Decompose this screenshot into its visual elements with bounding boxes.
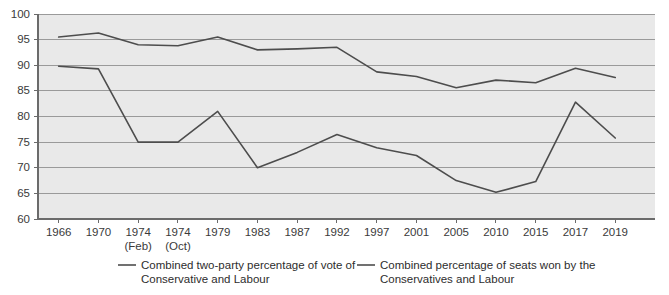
- x-axis-label-11: 2010: [483, 226, 509, 238]
- chart-legend: Combined two-party percentage of vote of…: [118, 259, 595, 285]
- y-axis-label-95: 95: [17, 33, 30, 45]
- x-axis-label-3: 1974: [165, 226, 191, 238]
- x-axis-ticks: 196619701974(Feb)1974(Oct)19791983198719…: [46, 219, 628, 252]
- legend-label-vote-line1: Combined two-party percentage of vote of: [141, 259, 356, 271]
- x-axis-label-0: 1966: [46, 226, 72, 238]
- x-axis-label-4: 1979: [205, 226, 231, 238]
- y-axis-label-75: 75: [17, 136, 30, 148]
- y-axis-label-100: 100: [11, 8, 30, 20]
- y-axis-label-65: 65: [17, 187, 30, 199]
- x-axis-label-2: 1974: [125, 226, 151, 238]
- line-chart: 6065707580859095100 196619701974(Feb)197…: [0, 0, 669, 295]
- x-axis-sublabel-2: (Feb): [124, 240, 152, 252]
- x-axis-label-1: 1970: [86, 226, 112, 238]
- x-axis-label-8: 1997: [364, 226, 390, 238]
- y-axis-ticks: 6065707580859095100: [11, 8, 38, 225]
- x-axis-sublabel-3: (Oct): [165, 240, 191, 252]
- y-axis-label-60: 60: [17, 213, 30, 225]
- x-axis-label-9: 2001: [404, 226, 430, 238]
- y-axis-label-85: 85: [17, 84, 30, 96]
- x-axis-label-5: 1983: [245, 226, 271, 238]
- legend-label-seats-line2: Conservatives and Labour: [380, 273, 514, 285]
- y-axis-label-90: 90: [17, 59, 30, 71]
- y-axis-label-80: 80: [17, 110, 30, 122]
- x-axis-label-12: 2015: [523, 226, 549, 238]
- y-axis-label-70: 70: [17, 161, 30, 173]
- legend-label-seats-line1: Combined percentage of seats won by the: [380, 259, 595, 271]
- legend-label-vote-line2: Conservative and Labour: [141, 273, 270, 285]
- chart-page: 6065707580859095100 196619701974(Feb)197…: [0, 0, 669, 295]
- x-axis-label-10: 2005: [443, 226, 469, 238]
- x-axis-label-7: 1992: [324, 226, 350, 238]
- x-axis-label-13: 2017: [563, 226, 589, 238]
- x-axis-label-6: 1987: [284, 226, 310, 238]
- x-axis-label-14: 2019: [602, 226, 628, 238]
